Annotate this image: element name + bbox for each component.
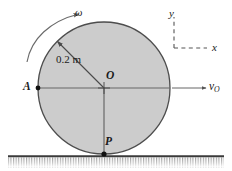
ground-surface <box>8 156 224 167</box>
y-axis-label: y <box>169 8 174 19</box>
point-marker-a <box>36 86 41 91</box>
point-label-o: O <box>106 70 114 82</box>
point-label-a: A <box>23 81 31 93</box>
physics-diagram-rolling-disk: ω 0.2 m O A P vO x y <box>0 0 232 171</box>
radius-dimension-label: 0.2 m <box>56 54 81 65</box>
point-label-p: P <box>105 136 112 148</box>
x-axis-label: x <box>212 42 217 53</box>
angular-velocity-label: ω <box>75 8 82 19</box>
diagram-canvas <box>0 0 232 171</box>
velocity-label: vO <box>209 81 220 94</box>
coordinate-axes <box>174 17 207 48</box>
point-marker-p <box>101 151 106 156</box>
velocity-subscript: O <box>214 85 220 94</box>
